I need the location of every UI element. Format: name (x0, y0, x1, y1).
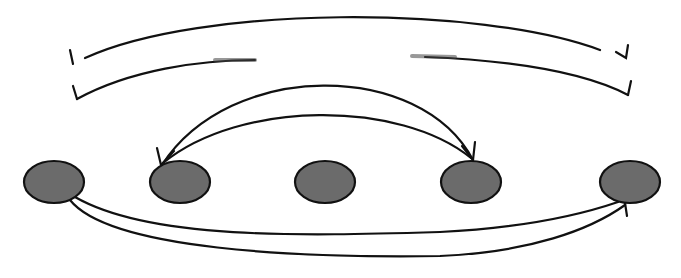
top-inner-arc-right (425, 57, 628, 95)
bottom-inner-arc (75, 197, 618, 234)
node-4 (441, 161, 501, 203)
mid-inner-arc (163, 115, 471, 163)
node-2 (150, 161, 210, 203)
top-outer-right-bracket (616, 45, 628, 58)
nodes (24, 161, 660, 203)
top-inner-arc (77, 60, 255, 99)
top-inner-right-bracket (628, 81, 631, 95)
mid-outer-arc (162, 86, 473, 165)
node-3 (295, 161, 355, 203)
arc-diagram (0, 0, 681, 278)
bottom-outer-arc (70, 200, 625, 256)
arrowhead-icon (473, 142, 475, 160)
top-outer-arc (85, 17, 600, 58)
node-1 (24, 161, 84, 203)
top-inner-left-bracket (73, 86, 77, 99)
arrowhead-icon (625, 203, 627, 216)
middle-arcs (157, 86, 475, 165)
bottom-arcs (70, 197, 627, 256)
node-5 (600, 161, 660, 203)
faded-segment-right (412, 56, 455, 57)
top-outer-left-tick (70, 50, 73, 64)
arrowhead-icon (157, 148, 161, 165)
